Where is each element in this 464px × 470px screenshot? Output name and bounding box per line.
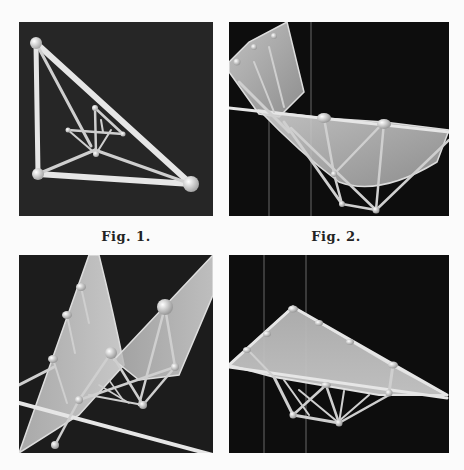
figure-2-caption: Fig. 2. xyxy=(276,229,396,244)
curved-surface-framework-render xyxy=(229,22,449,216)
figure-4-image xyxy=(229,255,449,453)
tetrahedron-wireframe-render xyxy=(19,22,213,216)
figure-3-image xyxy=(19,255,213,453)
figure-2-image xyxy=(229,22,449,216)
triangular-surface-truss-render xyxy=(229,255,449,453)
twisted-surface-framework-render xyxy=(19,255,213,453)
figure-1-caption: Fig. 1. xyxy=(66,229,186,244)
figure-1-image xyxy=(19,22,213,216)
